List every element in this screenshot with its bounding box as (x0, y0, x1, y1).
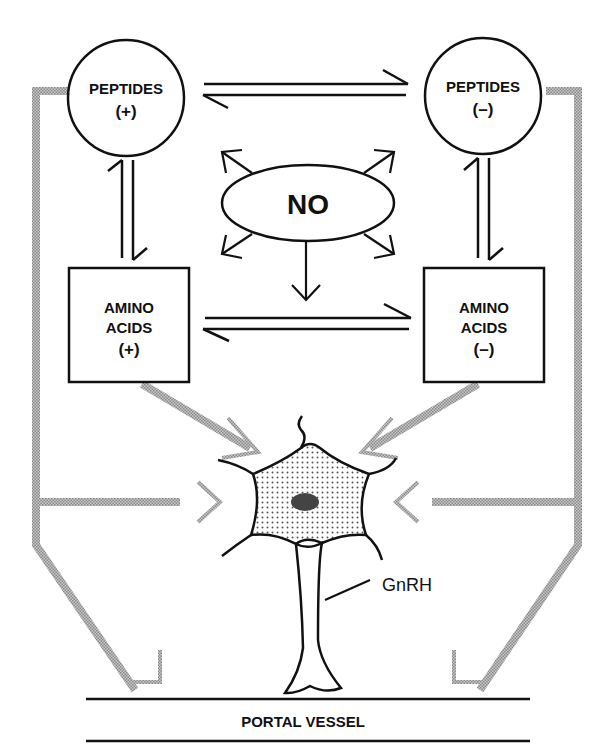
portal-vessel: PORTAL VESSEL (86, 699, 530, 741)
amino-plus-line2: ACIDS (106, 319, 153, 336)
amino-plus-to-cell-pathway (142, 384, 250, 448)
amino-minus-to-cell-pathway (370, 384, 478, 448)
gnrh-pointer-line (325, 580, 370, 600)
left-vertical-equilibrium-arrow (108, 160, 147, 260)
peptides-plus-label: PEPTIDES (89, 80, 163, 97)
portal-vessel-label: PORTAL VESSEL (241, 713, 365, 730)
no-label: NO (287, 189, 329, 220)
gnrh-regulation-diagram: PEPTIDES (+) PEPTIDES (–) NO (0, 0, 616, 745)
gnrh-label: GnRH (382, 575, 432, 595)
amino-minus-sign: (–) (474, 340, 495, 359)
peptides-minus-sign: (–) (473, 100, 494, 119)
peptides-equilibrium-arrow (203, 70, 408, 108)
peptides-plus-node: PEPTIDES (+) (68, 40, 184, 156)
gnrh-neuron: GnRH (218, 416, 432, 693)
arrowhead-icon (128, 650, 160, 682)
peptides-minus-node: PEPTIDES (–) (425, 38, 541, 154)
right-outer-pathway (480, 91, 578, 690)
arrowhead-icon (396, 482, 418, 522)
no-node: NO (222, 165, 394, 241)
amino-plus-sign: (+) (118, 340, 139, 359)
peptides-minus-label: PEPTIDES (446, 78, 520, 95)
peptides-plus-sign: (+) (115, 102, 136, 121)
left-outer-pathway (36, 91, 135, 690)
amino-acids-plus-node: AMINO ACIDS (+) (69, 268, 189, 382)
neuron-axon (285, 543, 341, 693)
right-vertical-equilibrium-arrow (464, 158, 503, 260)
arrowhead-icon (454, 650, 486, 682)
arrowhead-icon (198, 482, 220, 522)
amino-equilibrium-arrow (203, 304, 411, 341)
amino-minus-line2: ACIDS (461, 319, 508, 336)
amino-plus-line1: AMINO (104, 299, 154, 316)
neuron-nucleus (291, 493, 319, 511)
amino-acids-minus-node: AMINO ACIDS (–) (424, 268, 544, 382)
amino-minus-line1: AMINO (459, 299, 509, 316)
